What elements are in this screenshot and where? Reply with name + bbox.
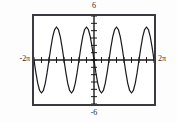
y-min-label: -6 xyxy=(80,108,108,117)
y-max-label: 6 xyxy=(80,1,108,10)
plot-canvas xyxy=(34,16,154,104)
plot-frame xyxy=(32,14,156,106)
graph-figure: 6 -6 -2π 2π xyxy=(0,0,177,122)
x-max-label: 2π xyxy=(158,54,177,63)
x-min-label: -2π xyxy=(2,54,30,63)
